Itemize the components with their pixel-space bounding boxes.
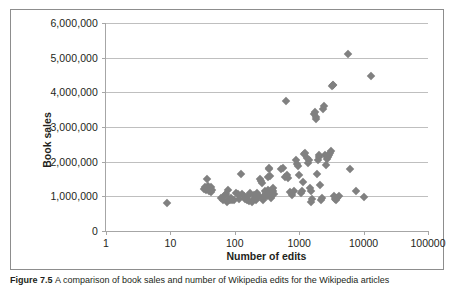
x-axis-tick-label: 10000 <box>349 237 378 249</box>
x-axis-tick-label: 10 <box>165 237 177 249</box>
data-point <box>352 187 360 195</box>
chart-frame: Book sales 01,000,0002,000,0003,000,0004… <box>10 9 444 270</box>
data-point <box>367 71 375 79</box>
y-axis-tick-label: 4,000,000 <box>50 86 98 98</box>
y-gridline <box>106 92 428 93</box>
y-gridline <box>106 23 428 24</box>
x-axis-tick-label: 100000 <box>410 237 445 249</box>
y-axis-tick-label: 5,000,000 <box>50 52 98 64</box>
y-axis-tick <box>102 58 106 59</box>
x-axis-tick <box>170 231 171 235</box>
caption-text: A comparison of book sales and number of… <box>55 275 389 285</box>
x-axis-tick <box>364 231 365 235</box>
x-axis-tick <box>106 231 107 235</box>
y-axis-tick <box>102 196 106 197</box>
data-point <box>344 49 352 57</box>
x-axis-tick-label: 100 <box>226 237 244 249</box>
data-point <box>299 178 307 186</box>
y-gridline <box>106 58 428 59</box>
data-point <box>163 198 171 206</box>
figure-container: Book sales 01,000,0002,000,0003,000,0004… <box>0 0 458 285</box>
x-axis-title: Number of edits <box>105 250 428 262</box>
y-axis-tick-label: 0 <box>92 225 98 237</box>
data-point <box>313 170 321 178</box>
data-point <box>316 181 324 189</box>
y-axis-tick-label: 3,000,000 <box>50 121 98 133</box>
data-point <box>329 80 337 88</box>
data-point <box>282 96 290 104</box>
x-axis-tick-label: 1000 <box>288 237 311 249</box>
y-axis-tick <box>102 162 106 163</box>
y-axis-tick <box>102 127 106 128</box>
figure-caption: Figure 7.5 A comparison of book sales an… <box>10 275 450 285</box>
y-axis-tick <box>102 23 106 24</box>
data-point <box>237 170 245 178</box>
y-axis-tick <box>102 92 106 93</box>
x-axis-tick <box>235 231 236 235</box>
data-point <box>346 165 354 173</box>
y-axis-tick-label: 6,000,000 <box>50 17 98 29</box>
y-gridline <box>106 162 428 163</box>
x-axis-tick-label: 1 <box>103 237 109 249</box>
x-axis-tick <box>299 231 300 235</box>
y-axis-tick-label: 2,000,000 <box>50 156 98 168</box>
x-axis-tick <box>428 231 429 235</box>
data-point <box>360 193 368 201</box>
y-gridline <box>106 127 428 128</box>
y-axis-tick-label: 1,000,000 <box>50 190 98 202</box>
plot-area: 01,000,0002,000,0003,000,0004,000,0005,0… <box>105 23 428 232</box>
caption-label: Figure 7.5 <box>10 275 53 285</box>
